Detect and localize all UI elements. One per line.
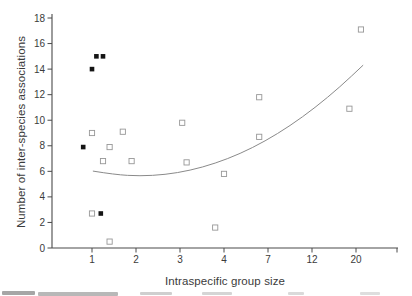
scatter-figure: 024681012141618123471220 Number of inter… xyxy=(0,0,412,296)
caption-fragment xyxy=(360,292,380,295)
x-tick-label: 1 xyxy=(89,254,95,265)
data-point-open-square xyxy=(358,27,363,32)
x-tick-label: 12 xyxy=(306,254,318,265)
y-tick-label: 2 xyxy=(39,217,45,228)
x-tick-label: 2 xyxy=(133,254,139,265)
x-tick-label: 4 xyxy=(221,254,227,265)
x-tick-label: 20 xyxy=(350,254,362,265)
data-point-open-square xyxy=(184,160,189,165)
data-point-open-square xyxy=(89,211,94,216)
data-point-open-square xyxy=(107,239,112,244)
y-tick-label: 12 xyxy=(34,89,46,100)
y-tick-label: 10 xyxy=(34,115,46,126)
data-point-filled-square xyxy=(81,145,86,150)
scatter-plot: 024681012141618123471220 xyxy=(0,0,412,296)
data-point-open-square xyxy=(213,225,218,230)
data-point-open-square xyxy=(257,134,262,139)
data-point-open-square xyxy=(100,159,105,164)
y-tick-label: 8 xyxy=(39,140,45,151)
y-tick-label: 14 xyxy=(34,64,46,75)
data-point-open-square xyxy=(120,129,125,134)
data-point-open-square xyxy=(129,159,134,164)
data-point-open-square xyxy=(257,95,262,100)
data-point-filled-square xyxy=(99,211,104,216)
data-point-open-square xyxy=(347,106,352,111)
caption-fragment xyxy=(202,292,232,295)
caption-fragment xyxy=(288,292,304,295)
x-tick-label: 3 xyxy=(177,254,183,265)
y-tick-label: 16 xyxy=(34,38,46,49)
y-tick-label: 0 xyxy=(39,243,45,254)
x-axis-title: Intraspecific group size xyxy=(52,275,398,287)
data-point-filled-square xyxy=(94,54,99,59)
y-tick-label: 18 xyxy=(34,13,46,24)
y-tick-label: 6 xyxy=(39,166,45,177)
data-point-open-square xyxy=(221,171,226,176)
y-tick-label: 4 xyxy=(39,191,45,202)
caption-fragment xyxy=(140,292,172,295)
data-point-filled-square xyxy=(101,54,106,59)
caption-fragment xyxy=(38,292,118,296)
y-axis-title: Number of inter-species associations xyxy=(15,26,27,238)
data-point-filled-square xyxy=(90,67,95,72)
data-point-open-square xyxy=(89,130,94,135)
x-tick-label: 7 xyxy=(265,254,271,265)
data-point-open-square xyxy=(180,120,185,125)
data-point-open-square xyxy=(107,144,112,149)
caption-fragment xyxy=(2,291,35,295)
